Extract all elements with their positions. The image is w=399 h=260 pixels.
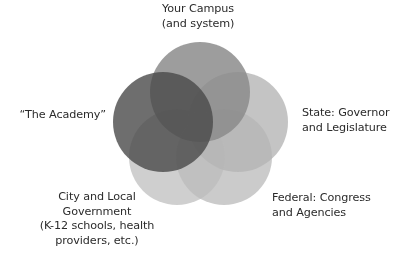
- circle-the-academy: [113, 72, 213, 172]
- label-federal-congress-and-agencies: Federal: Congress and Agencies: [272, 191, 399, 220]
- label-your-campus: Your Campus (and system): [123, 2, 273, 31]
- label-city-and-local-government: City and Local Government (K-12 schools,…: [14, 190, 180, 248]
- label-state-governor-and-legislature: State: Governor and Legislature: [302, 106, 399, 135]
- venn-diagram: Your Campus (and system) “The Academy” S…: [0, 0, 399, 260]
- label-the-academy: “The Academy”: [0, 108, 106, 123]
